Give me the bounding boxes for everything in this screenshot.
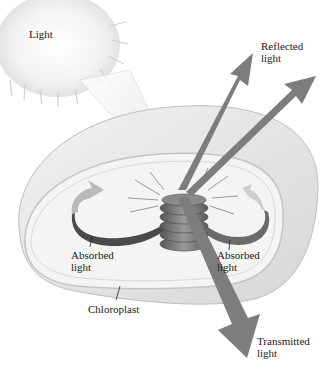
label-chloroplast: Chloroplast <box>88 303 139 315</box>
label-absorbed-light-right: Absorbed light <box>217 249 260 273</box>
label-light: Light <box>29 28 53 40</box>
label-reflected-light: Reflected light <box>261 40 303 64</box>
label-transmitted-light: Transmitted light <box>257 335 310 359</box>
label-absorbed-light-left: Absorbed light <box>71 249 114 273</box>
